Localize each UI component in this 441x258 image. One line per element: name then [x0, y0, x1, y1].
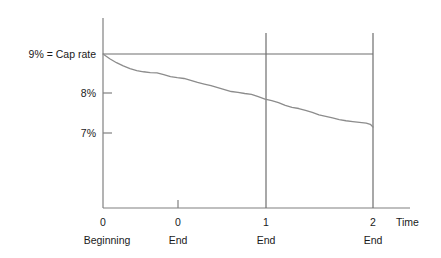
chart-figure: 9% = Cap rate 8% 7% 0 0 1 2 Time Beginni…: [0, 0, 441, 258]
y-label-7-percent: 7%: [6, 127, 96, 139]
x-axis-title: Time: [396, 216, 419, 228]
y-label-8-percent: 8%: [6, 87, 96, 99]
effective-yield-curve: [103, 54, 373, 127]
x-label-year1-end: 1: [263, 216, 269, 228]
x-label-year2-end: 2: [370, 216, 376, 228]
x-label-year0-end: 0: [175, 216, 181, 228]
phase-label-end-year2: End: [364, 234, 383, 246]
x-label-year0-beginning: 0: [100, 216, 106, 228]
phase-label-end-year1: End: [257, 234, 276, 246]
phase-label-end-year0: End: [169, 234, 188, 246]
y-label-cap-rate: 9% = Cap rate: [6, 48, 96, 60]
phase-label-beginning: Beginning: [84, 234, 131, 246]
